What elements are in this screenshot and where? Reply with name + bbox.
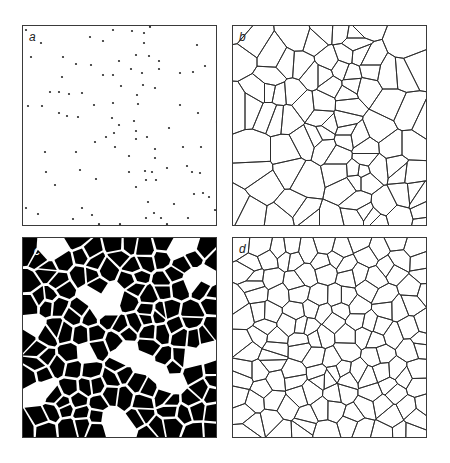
filled-cell (117, 272, 134, 289)
cell-boundary (277, 252, 290, 272)
data-point (192, 71, 194, 73)
data-point (146, 136, 148, 138)
data-point (72, 218, 74, 220)
data-point (131, 30, 133, 32)
voronoi-cell (303, 28, 329, 56)
filled-cell (71, 393, 87, 407)
data-point (137, 103, 139, 105)
cell-boundary (347, 238, 372, 253)
cell-boundary (263, 268, 285, 290)
data-point (153, 212, 155, 214)
voronoi-cell (264, 202, 295, 225)
data-point (143, 32, 145, 34)
data-point (27, 105, 29, 107)
voronoi-cell (402, 130, 426, 161)
data-point (89, 36, 91, 38)
filled-cell (204, 404, 216, 422)
filled-cell (136, 238, 154, 255)
voronoi-cell (274, 189, 307, 218)
filled-cell (155, 389, 172, 407)
filled-cell (181, 300, 204, 317)
voronoi-cell (359, 65, 380, 81)
voronoi-cell (245, 170, 285, 206)
cell-boundary (262, 342, 288, 357)
filled-cell (90, 410, 103, 422)
voronoi-cell (342, 78, 361, 94)
data-point (141, 72, 143, 74)
cell-boundary (294, 263, 318, 287)
cell-boundary (417, 284, 426, 308)
data-point (75, 63, 77, 65)
voronoi-cell (257, 31, 287, 68)
filled-cell (139, 325, 154, 339)
data-point (111, 117, 113, 119)
cell-boundary (246, 269, 264, 281)
cell-boundary (322, 312, 345, 334)
filled-cell (75, 419, 89, 437)
voronoi-cell (409, 180, 426, 209)
filled-cell (124, 238, 137, 255)
data-point (25, 29, 27, 31)
cell-boundary (386, 265, 409, 286)
voronoi-cell (334, 135, 353, 151)
filled-cell (105, 331, 122, 351)
voronoi-cell (290, 160, 325, 199)
data-point (154, 87, 156, 89)
filled-cell (90, 341, 109, 361)
cell-boundary (401, 295, 426, 316)
filled-cell (204, 423, 216, 437)
cell-boundary (372, 363, 390, 383)
filled-cell (73, 248, 88, 264)
voronoi-cell (387, 163, 407, 185)
cell-boundary (299, 238, 318, 264)
cell-boundary (253, 319, 277, 335)
data-point (58, 91, 60, 93)
data-point (130, 68, 132, 70)
data-point (199, 172, 201, 174)
voronoi-cell (281, 104, 305, 134)
cell-boundary (406, 422, 426, 437)
voronoi-cell (387, 183, 410, 208)
cell-boundary (310, 396, 328, 421)
data-point (191, 171, 193, 173)
filled-cell (36, 423, 57, 437)
data-point (202, 192, 204, 194)
voronoi-network (233, 26, 426, 225)
data-point (173, 203, 175, 205)
cell-boundary (315, 264, 338, 286)
voronoi-cell (411, 217, 426, 225)
panel-label-c: c (34, 244, 40, 258)
filled-cell (182, 318, 203, 329)
data-point (182, 146, 184, 148)
data-point (144, 170, 146, 172)
voronoi-cell (276, 47, 295, 79)
data-point (179, 72, 181, 74)
filled-cell (103, 368, 121, 386)
cell-boundary (266, 370, 286, 392)
cell-boundary (288, 285, 310, 303)
voronoi-cell (357, 202, 374, 221)
filled-cell (86, 424, 107, 437)
cell-boundary (358, 383, 383, 402)
voronoi-cell (347, 158, 360, 176)
voronoi-cell (311, 139, 336, 166)
data-point (208, 196, 210, 198)
filled-cell (156, 325, 169, 345)
data-point (113, 132, 115, 134)
filled-cell (192, 282, 211, 301)
filled-cell (117, 386, 133, 411)
voronoi-cell (233, 161, 273, 189)
filled-cell (188, 329, 200, 348)
panel-label-a: a (29, 30, 36, 44)
data-point (186, 165, 188, 167)
data-point (204, 65, 206, 67)
data-point (118, 60, 120, 62)
voronoi-cell (378, 53, 398, 90)
cell-boundary (252, 359, 269, 382)
data-point (119, 223, 121, 225)
filled-cell (137, 257, 155, 273)
data-point (158, 60, 160, 62)
data-point (193, 193, 195, 195)
data-point (61, 76, 63, 78)
cell-boundary (270, 238, 286, 259)
